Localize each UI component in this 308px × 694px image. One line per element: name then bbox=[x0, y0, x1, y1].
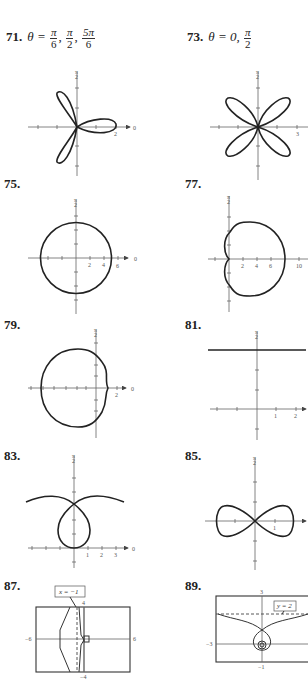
svg-text:4: 4 bbox=[255, 263, 258, 269]
svg-text:0: 0 bbox=[133, 125, 136, 131]
svg-text:10: 10 bbox=[296, 263, 302, 269]
svg-text:2: 2 bbox=[74, 202, 77, 208]
svg-text:2: 2 bbox=[253, 460, 256, 466]
graph-77-limacon: 2 4 6 10 π2 bbox=[208, 194, 308, 312]
svg-text:2: 2 bbox=[75, 74, 78, 80]
svg-text:x = −1: x = −1 bbox=[58, 588, 79, 596]
svg-text:1: 1 bbox=[86, 552, 89, 558]
svg-text:2: 2 bbox=[94, 332, 97, 338]
svg-text:−1: −1 bbox=[258, 664, 264, 670]
graph-81-horizontal-line: 1 2 π2 bbox=[208, 329, 306, 440]
svg-text:2: 2 bbox=[114, 131, 117, 137]
svg-text:3: 3 bbox=[114, 552, 117, 558]
graph-85-lemniscate: 1 π2 bbox=[205, 455, 306, 570]
svg-text:−4: −4 bbox=[80, 674, 86, 680]
svg-text:2: 2 bbox=[115, 392, 118, 398]
svg-text:6: 6 bbox=[269, 263, 272, 269]
svg-text:0: 0 bbox=[134, 256, 137, 262]
petal bbox=[77, 119, 116, 133]
svg-text:−6: −6 bbox=[25, 636, 31, 642]
svg-text:2: 2 bbox=[72, 458, 75, 464]
svg-text:2: 2 bbox=[256, 74, 259, 80]
svg-text:2: 2 bbox=[294, 413, 297, 419]
graph-73-four-petal-rose: 3 π2 bbox=[210, 69, 308, 180]
svg-text:4: 4 bbox=[102, 262, 105, 268]
svg-text:y = 2: y = 2 bbox=[276, 602, 292, 610]
svg-text:2: 2 bbox=[100, 552, 103, 558]
svg-text:4: 4 bbox=[82, 600, 85, 606]
svg-text:3: 3 bbox=[260, 589, 263, 595]
graph-87-calculator-window: x = −1 −6 6 4 −4 bbox=[25, 586, 136, 680]
svg-text:1: 1 bbox=[274, 413, 277, 419]
svg-text:0: 0 bbox=[131, 386, 134, 392]
graphs-canvas: 2 0 π2 3 π2 2 4 6 0 π2 2 4 bbox=[0, 0, 308, 694]
graph-71-three-petal-rose: 2 0 π2 bbox=[28, 69, 136, 176]
graph-79-limacon: 2 0 π2 bbox=[28, 327, 134, 438]
svg-text:1: 1 bbox=[273, 525, 276, 531]
graph-89-calculator-window: y = 2 −3 3 −1 bbox=[206, 589, 308, 670]
petal bbox=[57, 92, 77, 127]
svg-text:6: 6 bbox=[133, 636, 136, 642]
svg-text:2: 2 bbox=[227, 199, 230, 205]
graph-75-circle: 2 4 6 0 π2 bbox=[28, 197, 137, 314]
svg-text:2: 2 bbox=[255, 334, 258, 340]
svg-text:2: 2 bbox=[241, 263, 244, 269]
petal bbox=[57, 127, 77, 163]
svg-text:−3: −3 bbox=[206, 641, 212, 647]
svg-text:2: 2 bbox=[88, 262, 91, 268]
graph-83-conchoid: 1 2 3 0 π2 bbox=[26, 453, 135, 568]
svg-text:3: 3 bbox=[296, 131, 299, 137]
svg-text:6: 6 bbox=[116, 263, 119, 269]
svg-text:0: 0 bbox=[132, 546, 135, 552]
